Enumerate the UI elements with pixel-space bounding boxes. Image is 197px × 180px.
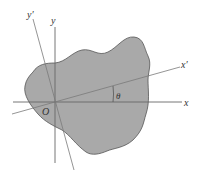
x-prime-axis-label: x′ <box>180 59 188 70</box>
irregular-region <box>25 37 150 154</box>
angle-theta-label: θ <box>116 91 121 101</box>
rotated-axes-diagram: x y x′ y′ O θ <box>0 0 197 180</box>
y-prime-axis-label: y′ <box>26 9 34 20</box>
origin-label: O <box>42 106 49 117</box>
y-axis-label: y <box>50 15 56 26</box>
x-axis-label: x <box>183 97 189 108</box>
